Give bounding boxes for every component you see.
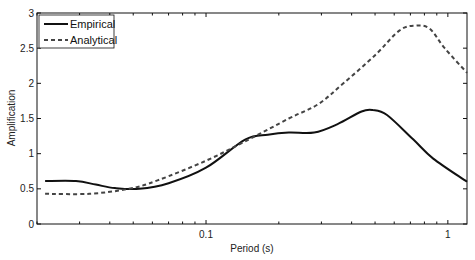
x-tick-label: 0.1 — [199, 229, 213, 240]
y-tick-label: 0.5 — [20, 183, 34, 194]
amplification-chart: 00.511.522.53 0.11 Period (s) Amplificat… — [0, 0, 475, 260]
legend-analytical-label: Analytical — [70, 34, 117, 46]
x-axis-label: Period (s) — [230, 243, 273, 254]
y-tick-label: 1 — [28, 148, 34, 159]
x-tick-label: 1 — [445, 229, 451, 240]
y-tick-label: 3 — [28, 8, 34, 19]
y-axis-label: Amplification — [6, 90, 17, 147]
y-tick-label: 2.5 — [20, 43, 34, 54]
legend-empirical-label: Empirical — [70, 18, 115, 30]
y-tick-label: 1.5 — [20, 113, 34, 124]
y-tick-label: 2 — [28, 78, 34, 89]
y-tick-label: 0 — [28, 219, 34, 230]
legend: Empirical Analytical — [39, 15, 117, 48]
x-axis-ticks: 0.11 — [199, 229, 451, 240]
